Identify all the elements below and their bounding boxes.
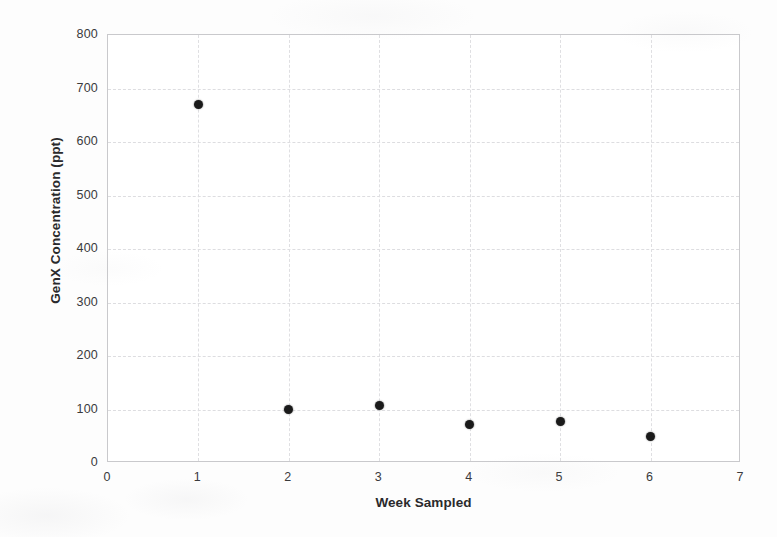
- data-point: [646, 432, 655, 441]
- data-point: [284, 405, 293, 414]
- data-point: [375, 401, 384, 410]
- scatter-chart-figure: 0100200300400500600700800 01234567 GenX …: [0, 0, 777, 537]
- x-tick-label-3: 3: [358, 470, 398, 484]
- gridline-horizontal-700: [108, 89, 739, 90]
- gridline-vertical-2: [289, 35, 290, 461]
- x-axis-title: Week Sampled: [107, 495, 740, 510]
- y-axis-title: GenX Concentration (ppt): [48, 71, 63, 371]
- y-tick-label-800: 800: [38, 27, 98, 41]
- data-point: [556, 417, 565, 426]
- gridline-vertical-6: [651, 35, 652, 461]
- gridline-vertical-4: [470, 35, 471, 461]
- gridline-vertical-5: [560, 35, 561, 461]
- x-tick-label-7: 7: [720, 470, 760, 484]
- data-point: [465, 420, 474, 429]
- gridline-horizontal-200: [108, 356, 739, 357]
- x-tick-label-6: 6: [630, 470, 670, 484]
- gridline-horizontal-600: [108, 142, 739, 143]
- x-tick-label-1: 1: [177, 470, 217, 484]
- x-tick-label-5: 5: [539, 470, 579, 484]
- data-point: [194, 100, 203, 109]
- gridline-vertical-3: [379, 35, 380, 461]
- gridline-vertical-1: [198, 35, 199, 461]
- gridline-horizontal-100: [108, 410, 739, 411]
- x-axis-tick-labels: 01234567: [107, 470, 740, 490]
- gridline-horizontal-400: [108, 249, 739, 250]
- gridline-horizontal-300: [108, 303, 739, 304]
- y-tick-label-0: 0: [38, 455, 98, 469]
- x-tick-label-2: 2: [268, 470, 308, 484]
- x-tick-label-4: 4: [449, 470, 489, 484]
- plot-area: [107, 34, 740, 462]
- gridline-horizontal-500: [108, 196, 739, 197]
- x-tick-label-0: 0: [87, 470, 127, 484]
- y-axis-tick-labels: 0100200300400500600700800: [36, 34, 98, 462]
- y-tick-label-100: 100: [38, 402, 98, 416]
